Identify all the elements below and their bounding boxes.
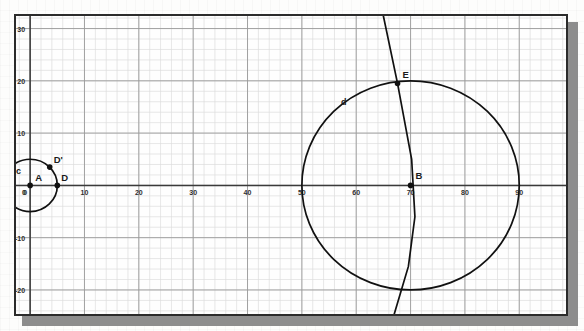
x-tick-label: 30	[189, 189, 197, 196]
point-D[interactable]	[55, 183, 61, 189]
object-labels: cdABCDD'E	[16, 69, 423, 184]
minor-gridlines	[16, 16, 566, 314]
point-label-E: E	[403, 69, 409, 80]
x-tick-label: 60	[352, 189, 360, 196]
coordinate-plot[interactable]: 10203040506070809000302010-10-20 cdABCDD…	[16, 16, 566, 314]
circle-label-c: c	[16, 166, 21, 176]
x-tick-label: 10	[81, 189, 89, 196]
point-Dprime[interactable]	[47, 164, 53, 170]
y-tick-label: -20	[16, 287, 25, 294]
x-tick-label: 80	[461, 189, 469, 196]
tick-labels: 10203040506070809000302010-10-20	[16, 26, 523, 294]
point-E[interactable]	[395, 81, 401, 87]
y-tick-label: -10	[16, 235, 25, 242]
point-B[interactable]	[408, 183, 414, 189]
point-label-D: D	[61, 172, 68, 183]
y-tick-label: 30	[17, 26, 25, 33]
y-tick-label: 20	[17, 78, 25, 85]
point-label-B: B	[416, 170, 423, 181]
geometry-graphics-view[interactable]: 10203040506070809000302010-10-20 cdABCDD…	[14, 14, 568, 316]
point-A[interactable]	[27, 183, 33, 189]
x-tick-label: 20	[135, 189, 143, 196]
y-tick-label: 10	[17, 130, 25, 137]
point-label-A: A	[35, 172, 42, 183]
point-label-Dprime: D'	[54, 154, 63, 165]
circle-label-d: d	[341, 97, 347, 107]
left-edge-tick-label: 0	[22, 189, 26, 196]
x-tick-label: 40	[244, 189, 252, 196]
